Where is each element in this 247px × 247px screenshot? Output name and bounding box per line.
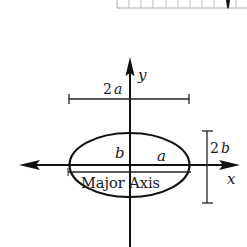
y-axis-label: y: [137, 66, 147, 84]
semi-minor-label: b: [115, 144, 125, 162]
major-axis-label: Major Axis: [81, 175, 160, 191]
x-axis-label: x: [227, 170, 236, 188]
top-ruler-strip: [117, 0, 247, 9]
y-axis: [126, 57, 135, 247]
ellipse-diagram: y x 2 a 2 b b a Major Axis: [0, 0, 247, 247]
height-dim-number: 2: [210, 140, 219, 156]
width-dim-variable: a: [114, 81, 122, 97]
width-dim-number: 2: [103, 81, 112, 97]
height-dim-variable: b: [221, 140, 230, 156]
semi-major-label: a: [157, 147, 166, 165]
